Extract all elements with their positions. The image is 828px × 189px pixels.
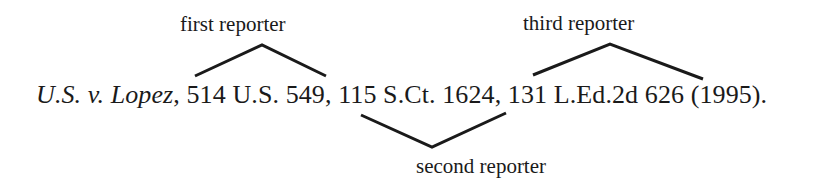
bracket-lines bbox=[0, 0, 828, 189]
first-reporter-bracket bbox=[195, 45, 326, 76]
second-reporter-bracket bbox=[361, 113, 506, 147]
third-reporter-bracket bbox=[533, 44, 703, 79]
